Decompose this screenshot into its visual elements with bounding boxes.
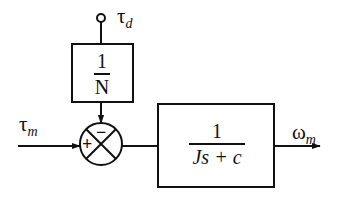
disturbance-label: τd [117, 6, 132, 27]
motor-torque-label: τm [19, 114, 38, 135]
disturbance-input-terminal [97, 14, 105, 22]
gear-ratio-numerator: 1 [97, 51, 107, 73]
plant-denominator: Js + c [192, 145, 241, 167]
motor-torque-subscript: m [27, 124, 37, 139]
minus-sign: − [96, 123, 106, 141]
gear-ratio-denominator: N [95, 75, 109, 97]
disturbance-subscript: d [125, 16, 132, 31]
output-symbol: ω [292, 120, 306, 144]
gear-ratio-fraction: 1 N [90, 51, 114, 97]
plant-fraction: 1 Js + c [186, 121, 248, 167]
output-subscript: m [306, 132, 316, 147]
output-label: ωm [292, 122, 316, 143]
plus-sign: + [82, 135, 92, 153]
block-diagram: − + τd τm ωm 1 N 1 Js + c [0, 0, 338, 202]
plant-numerator: 1 [212, 121, 222, 143]
